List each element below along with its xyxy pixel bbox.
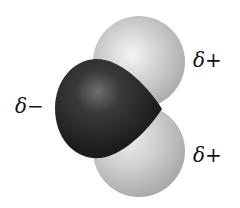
delta-symbol: δ: [15, 94, 27, 118]
delta-symbol: δ: [193, 48, 205, 72]
minus-sign: −: [27, 94, 44, 118]
plus-sign: +: [205, 48, 222, 72]
water-molecule-figure: δ− δ+ δ+: [0, 0, 240, 208]
oxygen-partial-negative-label: δ−: [15, 96, 44, 116]
hydrogen-top-partial-positive-label: δ+: [193, 50, 222, 70]
delta-symbol: δ: [193, 143, 205, 167]
hydrogen-bottom-partial-positive-label: δ+: [193, 145, 222, 165]
plus-sign: +: [205, 143, 222, 167]
